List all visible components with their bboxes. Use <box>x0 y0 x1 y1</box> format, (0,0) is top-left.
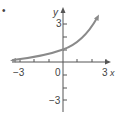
origin-label: 0 <box>55 67 61 78</box>
x-tick-label-neg3: −3 <box>13 67 25 78</box>
x-axis-label: x <box>109 68 115 78</box>
exponential-curve <box>13 18 97 60</box>
x-tick-label-3: 3 <box>102 67 108 78</box>
y-tick-label-neg3: −3 <box>49 95 61 106</box>
graph: • y 3 −3 0 3 x −3 <box>0 0 120 118</box>
y-axis-arrow-icon <box>61 7 66 13</box>
problem-marker: • <box>2 5 6 16</box>
y-axis-label: y <box>52 7 59 18</box>
y-tick-label-3: 3 <box>56 18 62 29</box>
